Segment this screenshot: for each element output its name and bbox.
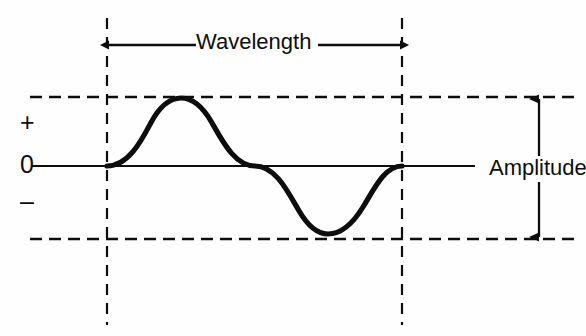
- amplitude-label: Amplitude: [489, 157, 586, 179]
- axis-label-zero: 0: [20, 152, 34, 177]
- axis-label-negative: –: [20, 189, 34, 214]
- wave-diagram: Wavelength Amplitude + 0 –: [0, 0, 586, 336]
- wavelength-label: Wavelength: [196, 31, 311, 53]
- axis-label-positive: +: [20, 110, 35, 135]
